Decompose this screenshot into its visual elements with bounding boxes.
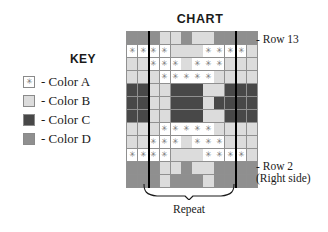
chart-cell[interactable] xyxy=(192,97,202,109)
chart-cell[interactable] xyxy=(138,162,148,174)
chart-cell[interactable] xyxy=(192,45,202,57)
chart-cell[interactable] xyxy=(236,162,246,174)
chart-cell[interactable] xyxy=(171,32,181,44)
chart-cell[interactable]: ✳ xyxy=(192,58,202,70)
chart-cell[interactable]: ✳ xyxy=(171,123,181,135)
chart-cell[interactable]: ✳ xyxy=(138,149,148,161)
chart-cell[interactable] xyxy=(149,84,159,96)
chart-grid[interactable]: ✳✳✳✳✳✳✳✳✳✳✳✳✳✳✳✳✳✳✳✳✳✳✳✳✳✳✳✳✳✳✳✳✳✳✳✳✳✳ xyxy=(126,31,258,188)
chart-cell[interactable] xyxy=(127,58,137,70)
chart-cell[interactable] xyxy=(138,110,148,122)
chart-cell[interactable]: ✳ xyxy=(160,123,170,135)
chart-cell[interactable] xyxy=(203,84,213,96)
chart-cell[interactable]: ✳ xyxy=(160,71,170,83)
chart-cell[interactable] xyxy=(127,97,137,109)
chart-cell[interactable] xyxy=(181,84,191,96)
chart-cell[interactable] xyxy=(138,71,148,83)
chart-cell[interactable] xyxy=(225,136,235,148)
chart-cell[interactable] xyxy=(149,71,159,83)
chart-cell[interactable] xyxy=(236,175,246,187)
chart-cell[interactable] xyxy=(138,123,148,135)
chart-cell[interactable] xyxy=(225,110,235,122)
chart-cell[interactable]: ✳ xyxy=(192,123,202,135)
chart-cell[interactable]: ✳ xyxy=(127,149,137,161)
chart-cell[interactable]: ✳ xyxy=(160,149,170,161)
chart-cell[interactable] xyxy=(181,58,191,70)
chart-cell[interactable] xyxy=(225,32,235,44)
chart-cell[interactable]: ✳ xyxy=(192,136,202,148)
chart-cell[interactable]: ✳ xyxy=(149,58,159,70)
chart-cell[interactable] xyxy=(203,97,213,109)
chart-cell[interactable] xyxy=(181,97,191,109)
chart-cell[interactable] xyxy=(225,84,235,96)
chart-cell[interactable] xyxy=(171,149,181,161)
chart-cell[interactable] xyxy=(171,45,181,57)
chart-cell[interactable] xyxy=(214,110,224,122)
chart-cell[interactable]: ✳ xyxy=(160,136,170,148)
chart-cell[interactable] xyxy=(127,162,137,174)
chart-cell[interactable] xyxy=(247,97,257,109)
chart-cell[interactable] xyxy=(247,58,257,70)
chart-cell[interactable]: ✳ xyxy=(203,149,213,161)
chart-cell[interactable] xyxy=(236,110,246,122)
chart-cell[interactable] xyxy=(225,162,235,174)
chart-cell[interactable]: ✳ xyxy=(171,71,181,83)
chart-cell[interactable] xyxy=(247,71,257,83)
chart-cell[interactable] xyxy=(236,84,246,96)
chart-cell[interactable]: ✳ xyxy=(214,149,224,161)
chart-cell[interactable]: ✳ xyxy=(214,136,224,148)
chart-cell[interactable]: ✳ xyxy=(203,71,213,83)
chart-cell[interactable]: ✳ xyxy=(236,149,246,161)
chart-cell[interactable]: ✳ xyxy=(203,123,213,135)
chart-cell[interactable] xyxy=(138,58,148,70)
chart-cell[interactable] xyxy=(236,136,246,148)
chart-cell[interactable] xyxy=(160,84,170,96)
chart-cell[interactable] xyxy=(192,162,202,174)
chart-cell[interactable] xyxy=(236,123,246,135)
chart-cell[interactable] xyxy=(149,162,159,174)
chart-cell[interactable] xyxy=(225,123,235,135)
chart-cell[interactable] xyxy=(127,110,137,122)
chart-cell[interactable] xyxy=(181,110,191,122)
chart-cell[interactable]: ✳ xyxy=(171,58,181,70)
chart-cell[interactable] xyxy=(247,84,257,96)
chart-cell[interactable] xyxy=(127,136,137,148)
chart-cell[interactable]: ✳ xyxy=(214,58,224,70)
chart-cell[interactable] xyxy=(160,110,170,122)
chart-cell[interactable] xyxy=(214,84,224,96)
chart-cell[interactable]: ✳ xyxy=(160,45,170,57)
chart-cell[interactable] xyxy=(127,32,137,44)
chart-cell[interactable] xyxy=(160,32,170,44)
chart-cell[interactable]: ✳ xyxy=(203,45,213,57)
chart-cell[interactable] xyxy=(247,45,257,57)
chart-cell[interactable]: ✳ xyxy=(149,136,159,148)
chart-cell[interactable] xyxy=(247,123,257,135)
chart-cell[interactable] xyxy=(247,110,257,122)
chart-cell[interactable] xyxy=(192,149,202,161)
chart-cell[interactable] xyxy=(225,97,235,109)
chart-cell[interactable] xyxy=(181,45,191,57)
chart-cell[interactable] xyxy=(138,136,148,148)
chart-cell[interactable] xyxy=(127,175,137,187)
chart-cell[interactable] xyxy=(192,32,202,44)
chart-cell[interactable] xyxy=(127,84,137,96)
chart-cell[interactable]: ✳ xyxy=(171,136,181,148)
chart-cell[interactable]: ✳ xyxy=(203,136,213,148)
chart-cell[interactable]: ✳ xyxy=(214,45,224,57)
chart-cell[interactable] xyxy=(149,32,159,44)
chart-cell[interactable] xyxy=(149,97,159,109)
chart-cell[interactable] xyxy=(171,97,181,109)
chart-cell[interactable] xyxy=(236,32,246,44)
chart-cell[interactable]: ✳ xyxy=(192,71,202,83)
chart-cell[interactable] xyxy=(214,97,224,109)
chart-cell[interactable] xyxy=(138,84,148,96)
chart-cell[interactable] xyxy=(181,32,191,44)
chart-cell[interactable]: ✳ xyxy=(138,45,148,57)
chart-cell[interactable] xyxy=(247,136,257,148)
chart-cell[interactable] xyxy=(236,58,246,70)
chart-cell[interactable]: ✳ xyxy=(225,45,235,57)
chart-cell[interactable] xyxy=(149,123,159,135)
chart-cell[interactable] xyxy=(171,110,181,122)
chart-cell[interactable] xyxy=(192,110,202,122)
chart-cell[interactable] xyxy=(225,71,235,83)
